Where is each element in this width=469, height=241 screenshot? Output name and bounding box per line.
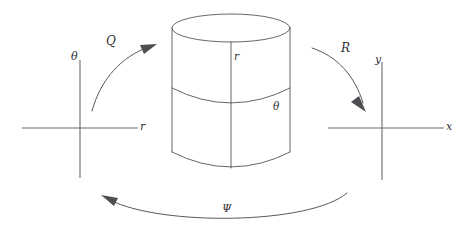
cylinder-group <box>172 14 290 168</box>
arrow-q-curve <box>92 47 148 111</box>
arrow-q-head <box>140 44 157 54</box>
cylinder-vertical-label: r <box>234 51 239 62</box>
right-horizontal-axis-label: x <box>446 121 452 132</box>
left-vertical-axis-label: θ <box>71 51 78 62</box>
arrow-q-group <box>92 44 157 111</box>
diagram-canvas: θ r r θ y x Q R Ψ <box>0 0 469 241</box>
map-psi-label: Ψ <box>222 203 232 214</box>
cylinder-circumferential-label: θ <box>273 101 279 112</box>
arrow-r-group <box>312 48 366 112</box>
arrow-r-head <box>351 96 366 112</box>
map-q-label: Q <box>106 35 116 47</box>
left-axes-group <box>22 60 138 178</box>
right-vertical-axis-label: y <box>375 54 381 65</box>
arrow-psi-head <box>101 195 118 206</box>
cylinder-top-ellipse <box>172 14 290 42</box>
right-axes-group <box>328 62 444 180</box>
left-horizontal-axis-label: r <box>140 121 145 132</box>
diagram-vector-layer <box>0 0 469 241</box>
map-r-label: R <box>341 42 350 54</box>
arrow-r-curve <box>312 48 363 103</box>
